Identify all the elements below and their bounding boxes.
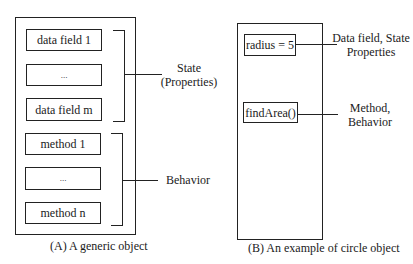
state-label-line1: State [160,61,218,75]
method-1-box: method 1 [25,133,101,155]
method-ellipsis-label: ... [60,174,67,183]
field-annotation-line2: Properties [328,45,413,59]
radius-field-label: radius = 5 [246,39,294,51]
method-connector-line [298,114,338,115]
method-annotation-line1: Method, [340,101,400,115]
caption-generic-object: (A) A generic object [50,239,148,253]
method-1-label: method 1 [41,138,86,150]
find-area-method-box: findArea() [243,102,298,123]
data-field-ellipsis-box: ... [26,64,102,86]
state-label: State (Properties) [160,61,218,89]
find-area-method-label: findArea() [245,107,296,119]
method-annotation: Method, Behavior [340,101,400,129]
caption-circle-object: (B) An example of circle object [248,241,400,255]
behavior-label: Behavior [166,173,210,187]
method-ellipsis-box: ... [25,167,101,190]
state-connector-line [124,74,162,75]
method-n-label: method n [41,207,86,219]
behavior-connector-line [122,180,158,181]
method-n-box: method n [25,202,101,224]
method-annotation-line2: Behavior [340,115,400,129]
field-annotation: Data field, State Properties [328,31,413,59]
state-label-line2: (Properties) [160,75,218,89]
radius-field-box: radius = 5 [244,34,296,56]
state-bracket [113,30,125,122]
data-field-ellipsis-label: ... [61,71,68,80]
data-field-m-label: data field m [35,104,92,116]
data-field-1-label: data field 1 [37,34,91,46]
field-annotation-line1: Data field, State [328,31,413,45]
data-field-1-box: data field 1 [26,29,102,51]
data-field-m-box: data field m [26,98,102,121]
